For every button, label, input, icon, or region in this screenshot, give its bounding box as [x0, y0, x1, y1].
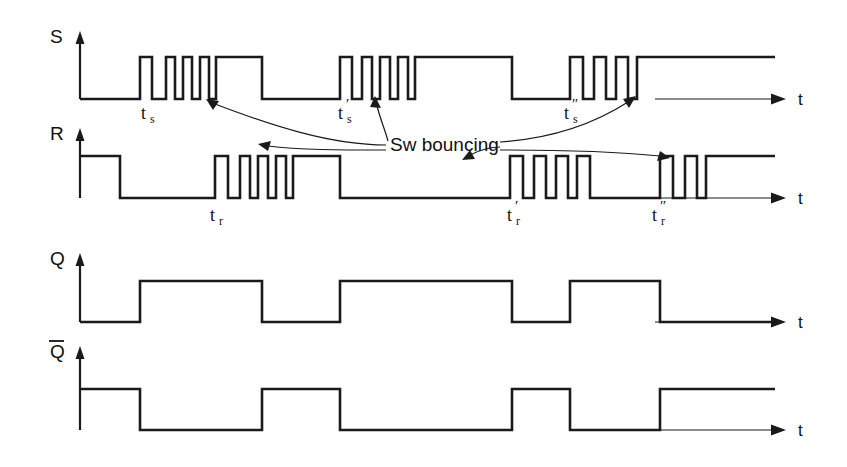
timing-diagram: S t t s t s ′ t s ″ R — [0, 0, 847, 467]
time-mark-ts-dprime: t s ″ — [564, 96, 578, 126]
time-mark-ts-prime: t s ′ — [338, 96, 352, 126]
leader-to-S-burst1 — [206, 99, 386, 145]
signal-label-S: S — [50, 26, 63, 47]
waveform-row-Qbar: Q t — [49, 341, 803, 440]
waveform-row-Q: Q t — [50, 248, 803, 332]
vertical-axis-Q — [76, 253, 85, 322]
time-mark-tr: t r — [210, 205, 223, 228]
waveform-row-S: S t t s t s ′ t s ″ — [50, 26, 803, 126]
signal-label-Qbar: Q — [50, 341, 65, 362]
time-mark-sub: s — [150, 112, 155, 126]
time-mark-sub: r — [661, 214, 665, 228]
time-axis-label-R: t — [798, 189, 803, 208]
time-axis-Qbar: t — [655, 421, 803, 440]
waveform-path-Q — [80, 281, 775, 322]
time-mark-tr-dprime: t r ″ — [652, 198, 666, 228]
time-mark-sub: s — [573, 112, 578, 126]
waveform-path-R — [80, 156, 775, 198]
time-mark-prime: ′ — [515, 198, 518, 214]
time-axis-label-S: t — [798, 90, 803, 109]
time-mark-base: t — [338, 103, 343, 123]
time-mark-base: t — [507, 205, 512, 225]
time-axis-label-Q: t — [798, 313, 803, 332]
time-mark-prime: ′ — [346, 96, 349, 112]
waveform-path-S — [80, 57, 775, 99]
time-axis-S: t — [655, 90, 803, 109]
time-mark-base: t — [564, 103, 569, 123]
annotation-label: Sw bouncing — [390, 134, 499, 155]
vertical-axis-R — [76, 128, 85, 198]
leader-to-R-burst1 — [258, 141, 386, 151]
time-mark-base: t — [141, 103, 146, 123]
waveform-path-Qbar — [80, 389, 775, 430]
vertical-axis-S — [76, 31, 85, 99]
signal-label-R: R — [50, 123, 64, 144]
time-mark-sub: r — [219, 214, 223, 228]
annotation-sw-bouncing: Sw bouncing — [206, 96, 670, 161]
time-mark-base: t — [210, 205, 215, 225]
time-mark-base: t — [652, 205, 657, 225]
time-mark-ts: t s — [141, 103, 155, 126]
time-mark-sub: r — [516, 214, 520, 228]
time-mark-prime: ″ — [572, 96, 578, 112]
time-mark-prime: ″ — [660, 198, 666, 214]
time-mark-tr-prime: t r ′ — [507, 198, 520, 228]
time-axis-label-Qbar: t — [798, 421, 803, 440]
signal-label-Q: Q — [50, 248, 65, 269]
leader-to-S-burst2 — [370, 96, 388, 141]
time-mark-sub: s — [347, 112, 352, 126]
